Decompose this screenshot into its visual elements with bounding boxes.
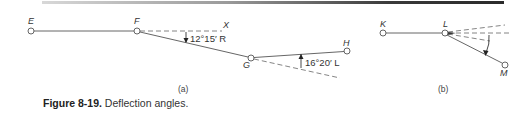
station-l xyxy=(442,30,448,36)
label-l: L xyxy=(443,19,448,29)
label-g: G xyxy=(243,60,250,70)
label-k: K xyxy=(380,19,387,29)
line-l-m xyxy=(447,35,502,63)
label-f: F xyxy=(134,16,140,26)
station-e xyxy=(28,28,34,34)
station-h xyxy=(344,48,350,54)
ray-lower xyxy=(448,34,490,41)
caption-text: Deflection angles. xyxy=(102,97,188,109)
label-m: M xyxy=(500,68,508,78)
angle-label-12-15-r: 12°15′ R xyxy=(190,33,226,44)
panel-label-b: (b) xyxy=(438,84,449,94)
station-k xyxy=(380,30,386,36)
ray-upper xyxy=(448,25,505,32)
arrow-down-icon xyxy=(483,50,489,56)
label-e: E xyxy=(28,16,35,26)
label-x: X xyxy=(222,20,230,30)
panel-a: E F X G H 12°15′ R 16°20′ L (a) xyxy=(28,16,350,94)
panel-b: K L M (b) xyxy=(380,19,510,94)
label-h: H xyxy=(343,38,350,48)
angle-arc-b xyxy=(486,35,489,53)
figure-caption: Figure 8-19. Deflection angles. xyxy=(43,97,188,109)
station-f xyxy=(134,28,140,34)
caption-number: Figure 8-19. xyxy=(43,97,102,109)
panel-label-a: (a) xyxy=(178,84,189,94)
angle-label-16-20-l: 16°20′ L xyxy=(305,57,340,68)
